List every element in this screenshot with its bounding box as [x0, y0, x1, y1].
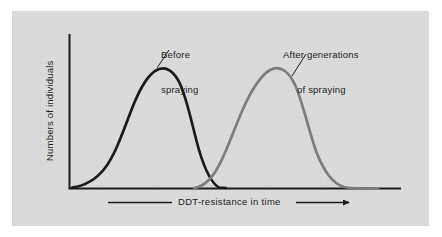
y-axis-title: Numbers of individuals — [44, 49, 56, 173]
after-spraying-label-line2: of spraying — [283, 84, 359, 96]
curve-before-spraying — [72, 68, 226, 188]
figure-container: Before spraying After generations of spr… — [0, 0, 442, 237]
before-spraying-label-line2: spraying — [161, 84, 199, 96]
x-axis-title: DDT-resistance in time — [178, 196, 281, 208]
after-spraying-label-line1: After generations — [283, 49, 359, 61]
before-spraying-label: Before spraying — [161, 26, 199, 118]
before-spraying-label-line1: Before — [161, 49, 199, 61]
after-spraying-label: After generations of spraying — [283, 26, 359, 118]
